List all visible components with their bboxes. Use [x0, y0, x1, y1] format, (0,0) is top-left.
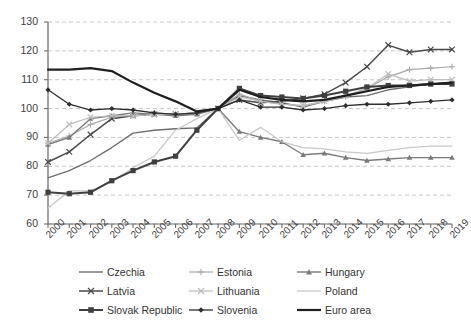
y-axis-label-90: 90 — [12, 131, 38, 142]
data-point-marker — [66, 149, 72, 155]
data-point-marker — [322, 106, 327, 111]
data-point-marker — [88, 190, 93, 195]
legend-marker-none-icon — [78, 266, 104, 278]
data-point-marker — [109, 106, 114, 111]
y-axis-label-120: 120 — [12, 45, 38, 56]
data-point-marker — [109, 178, 114, 183]
legend-marker-none-icon — [296, 285, 322, 297]
data-point-marker — [386, 102, 391, 107]
legend-label: Estonia — [217, 266, 252, 278]
data-point-marker — [407, 100, 412, 105]
data-point-marker — [428, 65, 434, 71]
data-point-marker — [428, 99, 433, 104]
legend-label: Euro area — [325, 304, 371, 316]
legend-marker-x-icon — [188, 285, 214, 297]
data-point-marker — [449, 64, 455, 70]
data-point-marker — [406, 67, 412, 73]
legend-label: Czechia — [107, 266, 145, 278]
data-point-marker — [343, 89, 348, 94]
legend-label: Latvia — [107, 285, 135, 297]
y-axis-label-70: 70 — [12, 189, 38, 200]
legend-marker-none-icon — [296, 304, 322, 316]
legend-marker-plus-icon — [188, 266, 214, 278]
legend-marker-diamond-icon — [188, 304, 214, 316]
chart-legend: CzechiaEstoniaHungaryLatviaLithuaniaPola… — [78, 266, 408, 316]
legend-item-estonia[interactable]: Estonia — [188, 266, 296, 278]
data-point-marker — [88, 132, 94, 138]
y-axis-label-130: 130 — [12, 16, 38, 27]
legend-label: Hungary — [325, 266, 365, 278]
y-axis-label-110: 110 — [12, 74, 38, 85]
legend-item-czechia[interactable]: Czechia — [78, 266, 188, 278]
data-point-marker — [364, 102, 369, 107]
data-point-marker — [198, 269, 204, 275]
data-point-marker — [173, 154, 178, 159]
data-point-marker — [66, 122, 72, 128]
data-point-marker — [364, 64, 370, 70]
legend-label: Poland — [325, 285, 358, 297]
data-point-marker — [343, 103, 348, 108]
legend-label: Slovenia — [217, 304, 257, 316]
series-line — [48, 83, 452, 178]
legend-label: Slovak Republic — [107, 304, 182, 316]
legend-item-latvia[interactable]: Latvia — [78, 285, 188, 297]
legend-item-hungary[interactable]: Hungary — [296, 266, 408, 278]
legend-marker-x-icon — [78, 285, 104, 297]
legend-marker-square-icon — [78, 304, 104, 316]
series-czechia — [48, 83, 452, 178]
data-point-marker — [88, 121, 94, 127]
y-axis-label-80: 80 — [12, 160, 38, 171]
data-point-marker — [364, 84, 369, 89]
data-point-marker — [449, 97, 454, 102]
data-point-marker — [88, 307, 94, 313]
series-line — [48, 84, 452, 194]
data-point-marker — [194, 128, 199, 133]
legend-label: Lithuania — [217, 285, 260, 297]
data-point-marker — [152, 159, 157, 164]
data-point-marker — [67, 191, 72, 196]
data-point-marker — [45, 190, 50, 195]
data-point-marker — [130, 168, 135, 173]
legend-marker-triangle-icon — [296, 266, 322, 278]
data-point-marker — [322, 93, 327, 98]
legend-item-slovak-republic[interactable]: Slovak Republic — [78, 304, 188, 316]
legend-item-slovenia[interactable]: Slovenia — [188, 304, 296, 316]
legend-item-poland[interactable]: Poland — [296, 285, 408, 297]
y-axis-label-60: 60 — [12, 218, 38, 229]
legend-item-euro-area[interactable]: Euro area — [296, 304, 408, 316]
legend-item-lithuania[interactable]: Lithuania — [188, 285, 296, 297]
series-line — [48, 67, 452, 143]
data-point-marker — [343, 80, 349, 86]
y-axis-label-100: 100 — [12, 103, 38, 114]
data-point-marker — [198, 307, 204, 313]
